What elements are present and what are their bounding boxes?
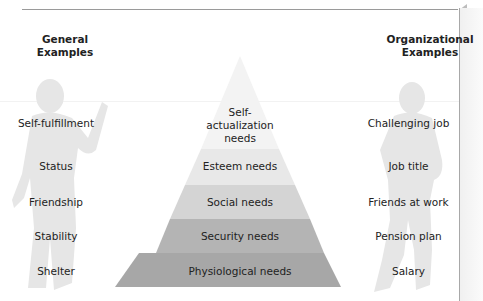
general-example-status: Status xyxy=(0,160,112,173)
org-example-friends-at-work: Friends at work xyxy=(356,196,461,209)
org-example-pension-plan: Pension plan xyxy=(356,230,461,243)
general-examples-header: General Examples xyxy=(30,33,100,59)
layer-label-security: Security needs xyxy=(155,230,325,243)
org-example-challenging-job: Challenging job xyxy=(356,117,461,130)
layer-label-self-actualization: Self- actualization needs xyxy=(155,106,325,145)
org-example-salary: Salary xyxy=(356,265,461,278)
general-example-friendship: Friendship xyxy=(0,196,112,209)
org-example-job-title: Job title xyxy=(356,160,461,173)
layer-label-esteem: Esteem needs xyxy=(155,160,325,173)
general-example-self-fulfillment: Self-fulfillment xyxy=(0,117,112,130)
layer-label-social: Social needs xyxy=(155,196,325,209)
general-example-shelter: Shelter xyxy=(0,265,112,278)
general-example-stability: Stability xyxy=(0,230,112,243)
layer-label-physiological: Physiological needs xyxy=(155,265,325,278)
organizational-examples-header: Organizational Examples xyxy=(380,33,480,59)
